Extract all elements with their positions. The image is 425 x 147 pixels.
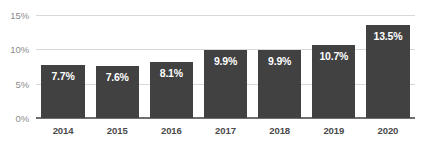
- bar-value-label: 13.5%: [366, 30, 409, 42]
- x-axis-tick-label: 2014: [35, 125, 90, 136]
- x-axis-tick-label: 2018: [252, 125, 307, 136]
- bar-group[interactable]: 7.7%2014: [41, 15, 84, 118]
- bar-group[interactable]: 8.1%2016: [150, 15, 193, 118]
- x-axis-tick-label: 2019: [306, 125, 361, 136]
- bar[interactable]: 9.9%: [258, 50, 301, 118]
- bar-value-label: 7.7%: [41, 70, 84, 82]
- bar[interactable]: 7.7%: [41, 65, 84, 118]
- x-axis-tick-label: 2020: [360, 125, 415, 136]
- bar[interactable]: 7.6%: [96, 66, 139, 118]
- plot-area: 0%5%10%15% 7.7%20147.6%20158.1%20169.9%2…: [36, 15, 415, 118]
- bar-group[interactable]: 9.9%2018: [258, 15, 301, 118]
- bar-group[interactable]: 7.6%2015: [96, 15, 139, 118]
- bar-value-label: 9.9%: [258, 55, 301, 67]
- bar[interactable]: 9.9%: [204, 50, 247, 118]
- bar-group[interactable]: 9.9%2017: [204, 15, 247, 118]
- bar[interactable]: 10.7%: [312, 45, 355, 118]
- y-axis-tick-label: 10%: [10, 44, 29, 55]
- x-axis-tick-label: 2017: [198, 125, 253, 136]
- y-axis-tick-label: 5%: [15, 78, 29, 89]
- bar-value-label: 10.7%: [312, 50, 355, 62]
- bar-value-label: 8.1%: [150, 67, 193, 79]
- bar[interactable]: 8.1%: [150, 62, 193, 118]
- bars-layer: 7.7%20147.6%20158.1%20169.9%20179.9%2018…: [36, 15, 415, 118]
- bar-value-label: 9.9%: [204, 55, 247, 67]
- y-axis-tick-label: 15%: [10, 10, 29, 21]
- y-axis-tick-label: 0%: [15, 113, 29, 124]
- bar-value-label: 7.6%: [96, 71, 139, 83]
- bar-group[interactable]: 13.5%2020: [366, 15, 409, 118]
- bar-chart: 0%5%10%15% 7.7%20147.6%20158.1%20169.9%2…: [0, 0, 425, 147]
- x-axis-tick-label: 2015: [90, 125, 145, 136]
- bar[interactable]: 13.5%: [366, 25, 409, 118]
- bar-group[interactable]: 10.7%2019: [312, 15, 355, 118]
- x-axis-tick-label: 2016: [144, 125, 199, 136]
